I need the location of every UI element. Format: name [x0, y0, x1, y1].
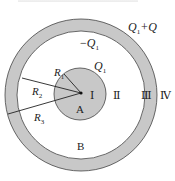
region-4-label: Ⅳ: [160, 89, 172, 101]
center-point: [79, 91, 82, 94]
outer-charge-label: Q1+Q: [128, 20, 157, 36]
shell-b-label: B: [77, 140, 84, 152]
region-1-label: Ⅰ: [90, 89, 94, 101]
region-3-label: Ⅲ: [141, 89, 152, 101]
concentric-sphere-diagram: Q1+Q −Q1 Q1 R1 R2 R3 A B Ⅰ Ⅱ Ⅲ Ⅳ: [0, 0, 175, 181]
sphere-a-label: A: [76, 103, 84, 115]
region-2-label: Ⅱ: [113, 89, 120, 101]
